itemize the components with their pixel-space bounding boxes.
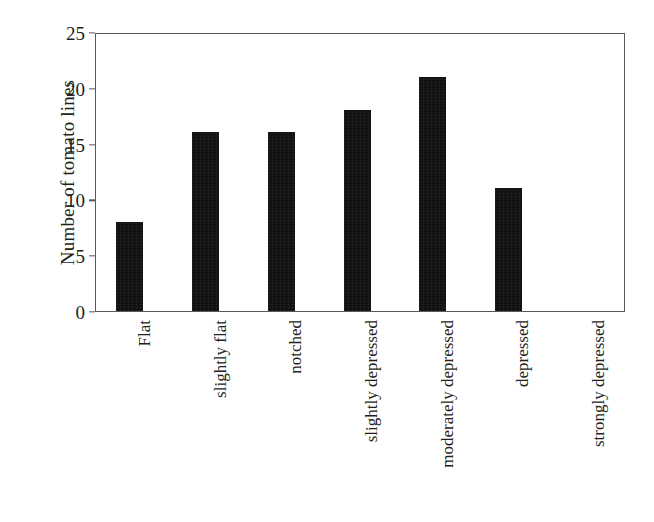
- x-tick-label-text: moderately depressed: [439, 320, 456, 468]
- bar: [192, 132, 219, 311]
- bar-chart-figure: Number of tomato lines 0510152025 Flatsl…: [0, 0, 654, 522]
- y-tick-label: 20: [49, 79, 85, 98]
- x-tick-label-text: Flat: [136, 320, 153, 346]
- y-tick-label: 5: [49, 247, 85, 266]
- bar: [344, 110, 371, 311]
- x-tick-label-text: depressed: [514, 320, 531, 387]
- bar: [116, 222, 143, 311]
- y-tick-label: 10: [49, 191, 85, 210]
- x-tick-label-text: slightly depressed: [363, 320, 380, 442]
- plot-area: [95, 33, 625, 312]
- y-tick-label: 25: [49, 24, 85, 43]
- bar: [419, 77, 446, 311]
- y-tick-label: 15: [49, 135, 85, 154]
- bar: [268, 132, 295, 311]
- x-tick-label-text: slightly flat: [212, 320, 229, 398]
- x-axis-labels: Flatslightly flatnotchedslightly depress…: [0, 312, 654, 522]
- bar: [495, 188, 522, 311]
- x-tick-label-text: notched: [287, 320, 304, 374]
- x-tick-label-text: strongly depressed: [590, 320, 607, 447]
